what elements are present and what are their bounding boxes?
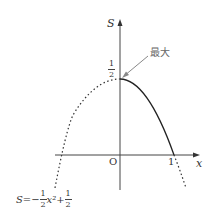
formula-den2: 2 — [66, 201, 71, 209]
max-pointer — [124, 56, 148, 76]
parabola-dashed-left — [55, 79, 120, 188]
formula-den1: 2 — [41, 201, 46, 209]
x-axis-label: x — [196, 158, 202, 169]
graph-canvas — [0, 0, 210, 221]
formula-label: S=− 1 2 x²+ 1 2 — [16, 190, 72, 209]
formula-mid: x²+ — [47, 195, 65, 205]
y-axis-label: S — [107, 18, 115, 29]
y-tick-denominator: 2 — [109, 71, 114, 79]
origin-label: O — [109, 157, 117, 167]
y-tick-half: 1 2 — [108, 60, 115, 79]
formula-num2: 1 — [66, 190, 71, 198]
y-axis-arrow-icon — [118, 19, 123, 26]
parabola-graph: S x O 1 1 2 最大 S=− 1 2 x²+ 1 2 — [0, 0, 210, 221]
y-tick-numerator: 1 — [109, 60, 114, 68]
parabola-solid — [120, 79, 174, 155]
max-annotation: 最大 — [150, 48, 170, 58]
parabola-dashed-right — [174, 155, 186, 188]
formula-prefix: S=− — [16, 195, 40, 205]
formula-num1: 1 — [41, 190, 46, 198]
x-tick-one: 1 — [168, 157, 174, 167]
